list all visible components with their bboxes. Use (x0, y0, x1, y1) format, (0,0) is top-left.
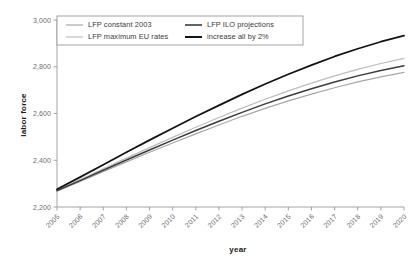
x-axis-ticks: 2005200620072008200920102011201220132014… (44, 207, 407, 229)
x-tick-label: 2010 (160, 213, 176, 229)
x-tick-label: 2017 (322, 213, 338, 229)
x-tick-label: 2006 (68, 213, 84, 229)
x-tick-label: 2011 (184, 213, 200, 229)
legend-label: LFP maximum EU rates (88, 32, 169, 41)
chart-legend: LFP constant 2003LFP maximum EU ratesLFP… (57, 16, 303, 45)
y-tick-label: 2,200 (33, 204, 51, 211)
series-lines (57, 36, 404, 191)
legend-label: increase all by 2% (207, 32, 269, 41)
x-tick-label: 2008 (114, 213, 130, 229)
y-axis-title: labor force (19, 93, 28, 137)
legend-label: LFP constant 2003 (88, 20, 152, 29)
y-axis-ticks: 2,2002,4002,6002,8003,000 (33, 17, 57, 211)
x-tick-label: 2019 (368, 213, 384, 229)
y-tick-label: 3,000 (33, 17, 51, 24)
x-tick-label: 2009 (137, 213, 153, 229)
x-tick-label: 2014 (253, 213, 269, 229)
line-chart: 2,2002,4002,6002,8003,000 20052006200720… (0, 0, 416, 262)
x-tick-label: 2018 (345, 213, 361, 229)
y-tick-label: 2,800 (33, 63, 51, 70)
y-tick-label: 2,600 (33, 110, 51, 117)
x-tick-label: 2005 (44, 213, 60, 229)
series-line (57, 72, 404, 191)
x-tick-label: 2012 (206, 213, 222, 229)
x-axis-title: year (229, 245, 246, 254)
x-tick-label: 2013 (230, 213, 246, 229)
y-tick-label: 2,400 (33, 157, 51, 164)
x-tick-label: 2015 (276, 213, 292, 229)
legend-label: LFP ILO projections (207, 20, 274, 29)
chart-container: 2,2002,4002,6002,8003,000 20052006200720… (0, 0, 416, 262)
x-tick-label: 2016 (299, 213, 315, 229)
x-tick-label: 2007 (91, 213, 107, 229)
series-line (57, 66, 404, 191)
x-tick-label: 2020 (391, 213, 407, 229)
